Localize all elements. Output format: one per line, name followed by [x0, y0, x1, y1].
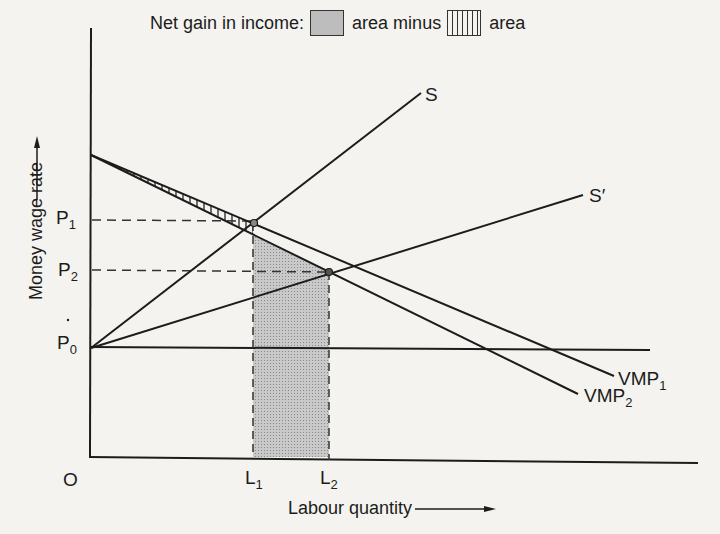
- wage-diagram: [0, 0, 720, 534]
- legend-shaded-label: area minus: [352, 13, 441, 34]
- hatched-swatch-icon: [447, 10, 481, 36]
- supply-curve-s-prime: [91, 195, 583, 348]
- equilibrium-point-1: [251, 220, 258, 227]
- s-curve-label: S: [425, 85, 438, 104]
- p0-line: [91, 347, 650, 350]
- l1-label: L1: [245, 468, 263, 491]
- tick-dot: [67, 319, 69, 321]
- x-arrow-head-icon: [484, 506, 496, 512]
- y-axis-label: Money wage rate: [26, 162, 47, 300]
- l2-label: L2: [320, 468, 338, 491]
- p1-guide: [92, 220, 253, 221]
- vmp2-curve-label: VMP2: [584, 386, 632, 409]
- x-axis: [89, 457, 698, 463]
- x-axis-label: Labour quantity: [288, 499, 412, 517]
- shaded-gain-area: [253, 235, 329, 458]
- y-arrow-head-icon: [34, 136, 40, 148]
- equilibrium-point-2: [326, 269, 333, 276]
- vmp1-curve: [91, 155, 614, 376]
- legend-prefix: Net gain in income:: [150, 13, 304, 34]
- legend-hatched-label: area: [489, 13, 525, 34]
- p1-label: P1: [56, 208, 76, 231]
- p0-label: P0: [57, 333, 77, 356]
- s-prime-curve-label: S′: [589, 186, 605, 205]
- p2-label: P2: [58, 260, 78, 283]
- legend: Net gain in income: area minus area: [150, 10, 525, 36]
- vmp2-curve: [91, 155, 578, 394]
- y-axis: [90, 28, 91, 457]
- origin-label: O: [63, 470, 78, 489]
- shaded-swatch-icon: [310, 10, 344, 36]
